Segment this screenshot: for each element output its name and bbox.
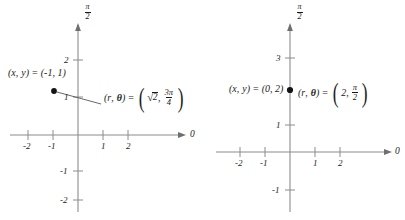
left-axis-top-label: π 2 — [84, 3, 91, 21]
left-ytick-label-2: 2 — [64, 56, 69, 65]
left-polar-theta-num: 3π — [164, 88, 175, 97]
left-plotted-point — [51, 88, 57, 94]
right-xtick-label-2: 2 — [338, 159, 343, 168]
left-axis-top-den: 2 — [85, 12, 91, 22]
left-x-axis-arrowhead — [178, 132, 186, 138]
right-rectangular-coordinate-label: (x,y) = (0, 2) — [229, 83, 283, 94]
right-polar-sep: , — [346, 88, 350, 98]
left-axis-top-num: π — [85, 3, 91, 12]
left-polar-big-close-paren: ) — [177, 89, 183, 106]
left-ytick-label-1: 1 — [64, 93, 69, 102]
right-axis-end-label: 0 — [395, 147, 400, 157]
right-axis-top-label: π 2 — [296, 3, 303, 21]
left-xtick-label--2: -2 — [23, 142, 31, 151]
right-polar-theta-den: 2 — [352, 92, 358, 102]
right-rect-value: (0, 2) — [262, 84, 284, 94]
left-xtick-label--1: -1 — [48, 142, 56, 151]
left-polar-theta-den: 4 — [166, 97, 172, 107]
right-polar-big-close-paren: ) — [361, 84, 367, 101]
right-ytick-label-3: 3 — [276, 54, 281, 63]
left-xtick-label-1: 1 — [101, 142, 106, 151]
left-polar-var-theta: θ — [115, 93, 122, 103]
right-axes-svg — [202, 0, 405, 220]
polar-plot-right: π 2 0 -2 -1 1 2 3 1 -1 (x,y) = (0, 2) (r… — [202, 0, 405, 220]
left-y-axis-arrowhead — [75, 23, 81, 31]
left-axis-end-label: 0 — [190, 130, 195, 140]
left-polar-sep: , — [158, 93, 162, 103]
left-rect-value: (-1, 1) — [41, 68, 66, 78]
right-axis-top-num: π — [297, 3, 303, 12]
left-polar-big-open-paren: ( — [139, 89, 145, 106]
right-y-axis-arrowhead — [287, 23, 293, 31]
left-axes-svg — [0, 0, 202, 220]
polar-plot-left: π 2 0 -2 -1 1 2 2 1 -1 -2 (x,y) = (-1, 1… — [0, 0, 202, 220]
left-ytick-label--1: -1 — [60, 167, 68, 176]
right-polar-theta-num: π — [352, 83, 358, 92]
left-xtick-label-2: 2 — [126, 142, 131, 151]
left-polar-equals: = — [125, 93, 137, 103]
right-axis-top-den: 2 — [297, 12, 303, 22]
left-rect-equals: = — [29, 68, 41, 78]
right-xtick-label-1: 1 — [313, 159, 318, 168]
right-xtick-label--2: -2 — [235, 159, 243, 168]
right-xtick-label--1: -1 — [260, 159, 268, 168]
right-polar-big-open-paren: ( — [333, 84, 339, 101]
right-rect-equals: = — [250, 84, 262, 94]
left-polar-coordinate-label: (r,θ) = ( √2, 3π 4 ) — [104, 88, 185, 107]
right-plotted-point — [287, 87, 293, 93]
polar-coordinates-figure: π 2 0 -2 -1 1 2 2 1 -1 -2 (x,y) = (-1, 1… — [0, 0, 405, 220]
right-ytick-label-1: 1 — [276, 121, 281, 130]
right-polar-equals: = — [319, 88, 331, 98]
right-ytick-label--1: -1 — [272, 186, 280, 195]
right-polar-coordinate-label: (r,θ) = ( 2, π 2 ) — [298, 83, 369, 102]
right-x-axis-arrowhead — [384, 149, 392, 155]
left-rectangular-coordinate-label: (x,y) = (-1, 1) — [8, 67, 66, 78]
right-polar-var-theta: θ — [309, 88, 316, 98]
left-ytick-label--2: -2 — [60, 196, 68, 205]
